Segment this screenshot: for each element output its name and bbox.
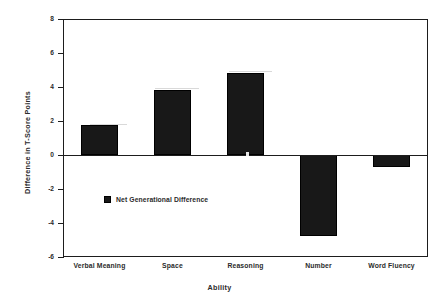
bar-chart: Difference in T-Score Points 86420-2-4-6… [0, 0, 439, 307]
bar [227, 73, 264, 155]
scan-artifact [229, 71, 272, 72]
bar [154, 90, 191, 155]
x-axis-tick-label: Number [282, 262, 355, 269]
y-axis-tick-label: -4 [0, 219, 54, 226]
x-axis-title: Ability [0, 283, 439, 292]
x-axis-tick-label: Word Fluency [355, 262, 428, 269]
y-axis-tick-label: 4 [0, 83, 54, 90]
x-axis-tick-label: Space [136, 262, 209, 269]
y-axis-title: Difference in T-Score Points [23, 43, 32, 243]
y-axis-tick-mark [58, 257, 64, 258]
bar [373, 155, 410, 167]
legend-label: Net Generational Difference [116, 196, 208, 203]
scan-artifact [90, 124, 127, 125]
y-axis-tick-mark [58, 53, 64, 54]
y-axis-tick-label: 2 [0, 117, 54, 124]
y-axis-tick-mark [58, 223, 64, 224]
y-axis-tick-mark [58, 19, 64, 20]
x-axis-tick-label: Reasoning [209, 262, 282, 269]
legend-swatch-icon [104, 196, 111, 203]
y-axis-tick-label: 8 [0, 15, 54, 22]
y-axis-tick-label: -2 [0, 185, 54, 192]
x-axis-tick-label: Verbal Meaning [63, 262, 136, 269]
y-axis-tick-label: -6 [0, 253, 54, 260]
scan-artifact [246, 152, 249, 156]
y-axis-tick-label: 0 [0, 151, 54, 158]
y-axis-tick-mark [58, 189, 64, 190]
scan-artifact [155, 88, 199, 89]
bar [300, 155, 337, 236]
y-axis-tick-label: 6 [0, 49, 54, 56]
bar [81, 125, 118, 155]
y-axis-tick-mark [58, 121, 64, 122]
legend: Net Generational Difference [104, 196, 208, 203]
y-axis-tick-mark [58, 87, 64, 88]
